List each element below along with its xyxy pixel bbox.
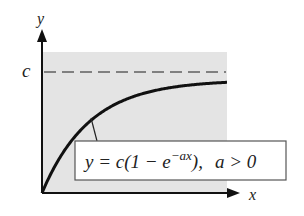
x-axis-label: x [248, 186, 256, 203]
formula-text: y = c(1 − e−ax),a > 0 [83, 148, 257, 173]
chart-canvas: y x c y = c(1 − e−ax),a > 0 [0, 0, 304, 216]
x-axis-arrow-icon [227, 188, 240, 198]
formula-condition: a > 0 [215, 151, 257, 172]
c-tick-label: c [22, 60, 31, 81]
formula-lhs: y = c(1 − e [83, 151, 171, 173]
y-axis-label: y [35, 10, 45, 28]
formula-exponent: −ax [171, 148, 192, 163]
y-axis-arrow-icon [37, 29, 47, 42]
formula-rhs: ), [191, 151, 203, 173]
